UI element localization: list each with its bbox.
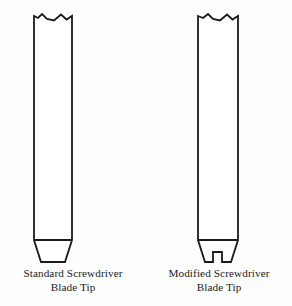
caption-modified-line1: Modified Screwdriver xyxy=(146,267,292,281)
standard-shaft-outline xyxy=(34,14,72,262)
caption-standard-screwdriver: Standard Screwdriver Blade Tip xyxy=(0,267,146,294)
modified-shaft-outline xyxy=(198,14,238,262)
caption-modified-screwdriver: Modified Screwdriver Blade Tip xyxy=(146,267,292,294)
modified-screwdriver-drawing xyxy=(198,14,238,262)
caption-modified-line2: Blade Tip xyxy=(146,281,292,295)
caption-standard-line2: Blade Tip xyxy=(0,281,146,295)
standard-screwdriver-drawing xyxy=(34,14,72,262)
line-drawing-canvas xyxy=(0,0,292,306)
caption-standard-line1: Standard Screwdriver xyxy=(0,267,146,281)
figure-screwdriver-blade-tip-comparison: Standard Screwdriver Blade Tip Modified … xyxy=(0,0,292,306)
